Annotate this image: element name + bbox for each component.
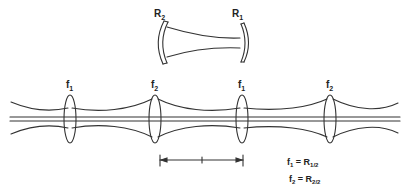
period-scale-bar: [160, 155, 243, 166]
lens-f2-a-label: f2: [151, 79, 158, 92]
equivalent-lens-waveguide-diagram: R2 R1 f1 f2 f1 f2 f1 = R1/2 f2 = R2/2: [0, 0, 409, 192]
optical-axis: [10, 117, 400, 121]
lens-f2-b-label: f2: [326, 79, 333, 92]
equation-f2: f2 = R2/2: [289, 174, 321, 185]
lens-f1-b: [236, 95, 248, 143]
lens-f1-a-label: f1: [66, 79, 73, 92]
mirror-r2: [158, 21, 168, 64]
lens-f1-b-label: f1: [238, 79, 245, 92]
mirror-r2-label: R2: [154, 8, 165, 21]
mirror-r1: [241, 23, 249, 62]
beam-envelope: [11, 99, 398, 137]
equation-f1: f1 = R1/2: [287, 157, 319, 168]
lens-f1-a: [64, 95, 76, 143]
cavity-beam-lower: [167, 48, 240, 57]
lens-f2-b: [324, 95, 336, 143]
cavity-beam-upper: [167, 27, 240, 38]
mirror-r1-label: R1: [232, 8, 243, 21]
resonator-cavity: [158, 21, 248, 64]
lens-f2-a: [149, 95, 161, 143]
